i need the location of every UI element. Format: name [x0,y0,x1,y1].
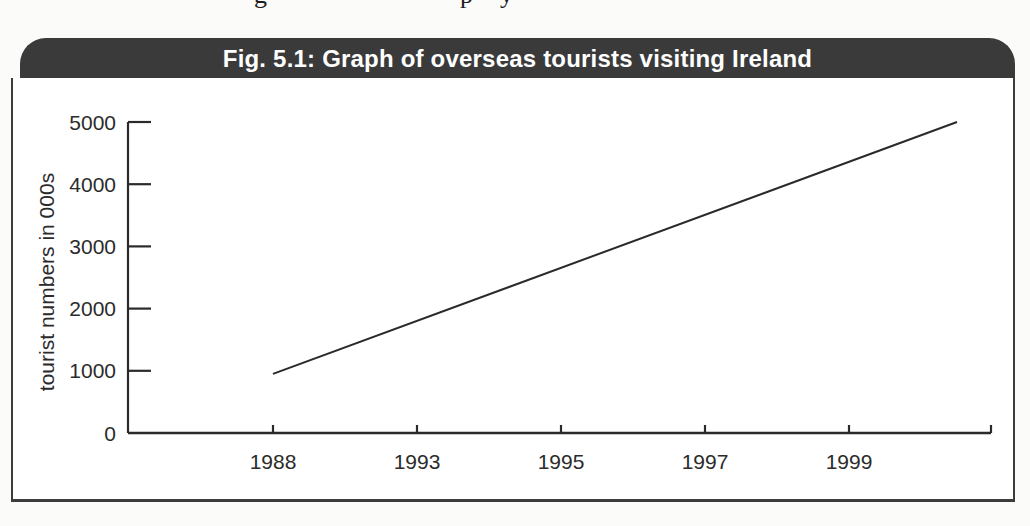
y-tick-label: 2000 [69,297,116,320]
y-tick-label: 5000 [69,111,116,134]
chart-canvas: 0100020003000400050001988199319951997199… [0,0,1030,526]
x-tick-label: 1999 [826,450,873,473]
y-tick-label: 3000 [69,235,116,258]
y-tick-label: 1000 [69,359,116,382]
data-line [273,122,957,374]
y-tick-label: 4000 [69,173,116,196]
x-tick-label: 1988 [250,450,297,473]
y-tick-label: 0 [104,422,116,445]
x-tick-label: 1993 [394,450,441,473]
x-tick-label: 1997 [682,450,729,473]
x-tick-label: 1995 [538,450,585,473]
page: g p y Fig. 5.1: Graph of overseas touris… [0,0,1030,526]
